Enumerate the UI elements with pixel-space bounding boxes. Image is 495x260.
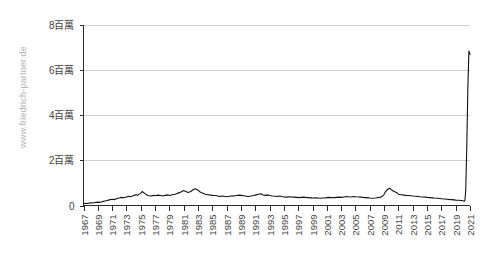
x-axis-label: 1983 <box>193 215 204 236</box>
x-axis-label: 2009 <box>379 215 390 236</box>
chart-root: www.friedrich-partner.de 02百萬4百萬6百萬8百萬 1… <box>0 0 495 260</box>
x-axis-label: 1977 <box>150 215 161 236</box>
x-axis-label: 1975 <box>136 215 147 236</box>
x-axis-label: 2007 <box>365 215 376 236</box>
line-chart-svg: 02百萬4百萬6百萬8百萬 19671969197119731975197719… <box>0 0 495 260</box>
x-axis-label: 1985 <box>207 215 218 236</box>
y-axis-label: 8百萬 <box>49 19 75 31</box>
series-line-1 <box>84 51 471 204</box>
x-axis-label: 2015 <box>422 215 433 236</box>
x-axis-label: 2019 <box>451 215 462 236</box>
x-axis-label: 1979 <box>164 215 175 236</box>
x-axis-label: 1989 <box>236 215 247 236</box>
y-axis-label: 6百萬 <box>49 64 75 76</box>
x-axis-label: 1991 <box>250 215 261 236</box>
x-axis-label: 2011 <box>393 215 404 235</box>
x-axis-label: 1981 <box>179 215 190 236</box>
x-axis-label: 1995 <box>279 215 290 236</box>
x-axis-label: 2005 <box>350 215 361 236</box>
x-axis-label: 2017 <box>436 215 447 236</box>
x-axis-label: 1969 <box>93 215 104 236</box>
x-axis-label: 1987 <box>222 215 233 236</box>
x-axis-label: 1993 <box>265 215 276 236</box>
x-axis-label: 1973 <box>121 215 132 236</box>
x-axis-labels-group: 1967196919711973197519771979198119831985… <box>79 215 476 236</box>
x-ticks-group <box>85 206 471 211</box>
x-axis-label: 1997 <box>293 215 304 236</box>
y-axis-label: 4百萬 <box>49 109 75 121</box>
x-axis-label: 1999 <box>308 215 319 236</box>
x-axis-label: 2001 <box>322 215 333 236</box>
x-axis-label: 2013 <box>408 215 419 236</box>
x-axis-label: 2021 <box>465 215 476 236</box>
x-axis-label: 1971 <box>107 215 118 236</box>
y-axis-labels-group: 02百萬4百萬6百萬8百萬 <box>49 19 75 212</box>
plot-area: 02百萬4百萬6百萬8百萬 19671969197119731975197719… <box>0 0 495 260</box>
gridlines-group <box>84 26 471 161</box>
x-axis-label: 1967 <box>79 215 90 236</box>
y-axis-label: 2百萬 <box>49 154 75 166</box>
x-axis-label: 2003 <box>336 215 347 236</box>
y-axis-label: 0 <box>69 201 75 212</box>
